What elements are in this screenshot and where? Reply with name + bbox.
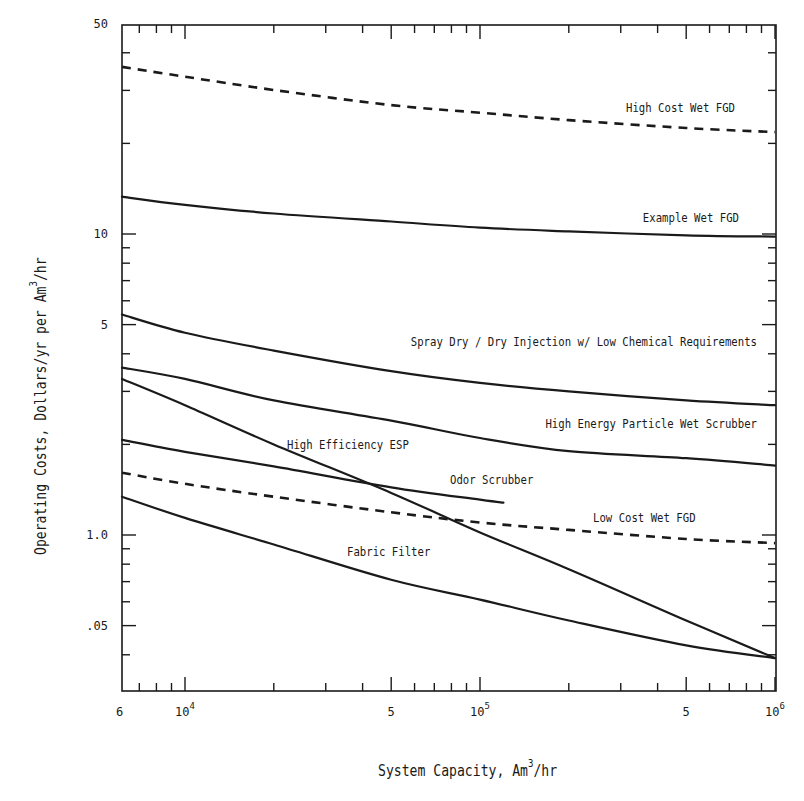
label-spray-dry-dry-injection-w-low-chemical-requirements: Spray Dry / Dry Injection w/ Low Chemica… — [411, 334, 757, 349]
y-tick-label: .05 — [86, 619, 108, 633]
label-odor-scrubber: Odor Scrubber — [450, 472, 533, 487]
y-tick-label: 5 — [101, 318, 108, 332]
label-example-wet-fgd: Example Wet FGD — [643, 210, 739, 225]
label-low-cost-wet-fgd: Low Cost Wet FGD — [593, 510, 696, 525]
label-high-energy-particle-wet-scrubber: High Energy Particle Wet Scrubber — [545, 416, 757, 431]
label-fabric-filter: Fabric Filter — [347, 544, 430, 559]
y-tick-label: 1.0 — [86, 528, 108, 542]
label-high-cost-wet-fgd: High Cost Wet FGD — [626, 100, 735, 115]
y-axis-title: Operating Costs, Dollars/yr per Am3/hr — [27, 257, 49, 555]
y-tick-label: 10 — [94, 227, 108, 241]
y-tick-label: 50 — [94, 17, 108, 31]
x-tick-label: 5 — [388, 705, 395, 719]
x-tick-label: 5 — [683, 705, 690, 719]
operating-cost-chart: High Cost Wet FGDExample Wet FGDSpray Dr… — [0, 0, 804, 801]
label-high-efficiency-esp: High Efficiency ESP — [287, 437, 409, 452]
x-tick-label: 6 — [116, 705, 123, 719]
